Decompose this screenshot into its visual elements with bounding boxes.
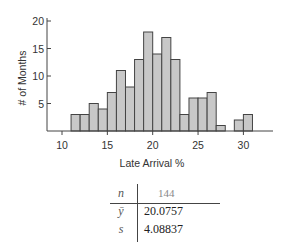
- histogram-bar: [135, 60, 144, 132]
- stat-row-n: n 144: [110, 184, 220, 202]
- y-tick-label: 10: [32, 70, 44, 82]
- histogram-bar: [171, 60, 180, 132]
- y-ticks: 5101520: [32, 15, 51, 110]
- x-tick-label: 15: [102, 139, 114, 151]
- table-divider-vertical: [137, 184, 138, 242]
- x-tick-label: 20: [147, 139, 159, 151]
- histogram-bar: [207, 93, 216, 132]
- histogram-bar: [71, 115, 80, 132]
- histogram-bars: [71, 32, 252, 131]
- histogram-bar: [234, 120, 243, 131]
- x-axis-label: Late Arrival %: [120, 157, 185, 169]
- y-axis-label: # of Months: [16, 51, 28, 106]
- stat-row-mean: ȳ 20.0757: [110, 202, 220, 220]
- x-ticks: 1015202530: [56, 131, 249, 151]
- x-tick-label: 10: [56, 139, 68, 151]
- stat-value-sd: 4.08837: [132, 222, 220, 237]
- summary-stats-table: n 144 ȳ 20.0757 s 4.08837: [110, 184, 220, 238]
- stat-row-sd: s 4.08837: [110, 220, 220, 238]
- histogram-bar: [144, 32, 153, 131]
- histogram-bar: [98, 109, 107, 131]
- histogram-bar: [162, 38, 171, 132]
- histogram-bar: [116, 71, 125, 132]
- stat-label-sd: s: [110, 222, 132, 237]
- y-tick-label: 15: [32, 43, 44, 55]
- histogram-bar: [153, 54, 162, 131]
- histogram-bar: [198, 98, 207, 131]
- y-tick-label: 5: [38, 98, 44, 110]
- histogram-bar: [125, 87, 134, 131]
- stat-value-mean: 20.0757: [132, 204, 220, 219]
- x-tick-label: 30: [238, 139, 250, 151]
- table-divider-horizontal: [110, 203, 220, 204]
- histogram-bar: [243, 115, 252, 132]
- x-tick-label: 25: [192, 139, 204, 151]
- stat-label-mean: ȳ: [110, 204, 132, 219]
- y-tick-label: 20: [32, 15, 44, 27]
- stat-label-n: n: [110, 186, 132, 201]
- histogram: 5101520 1015202530 # of Months Late Arri…: [0, 0, 286, 180]
- histogram-bar: [216, 126, 225, 132]
- histogram-bar: [189, 98, 198, 131]
- histogram-bar: [89, 104, 98, 132]
- histogram-bar: [107, 93, 116, 132]
- histogram-bar: [80, 115, 89, 132]
- stat-value-n: 144: [132, 187, 220, 199]
- histogram-bar: [180, 115, 189, 132]
